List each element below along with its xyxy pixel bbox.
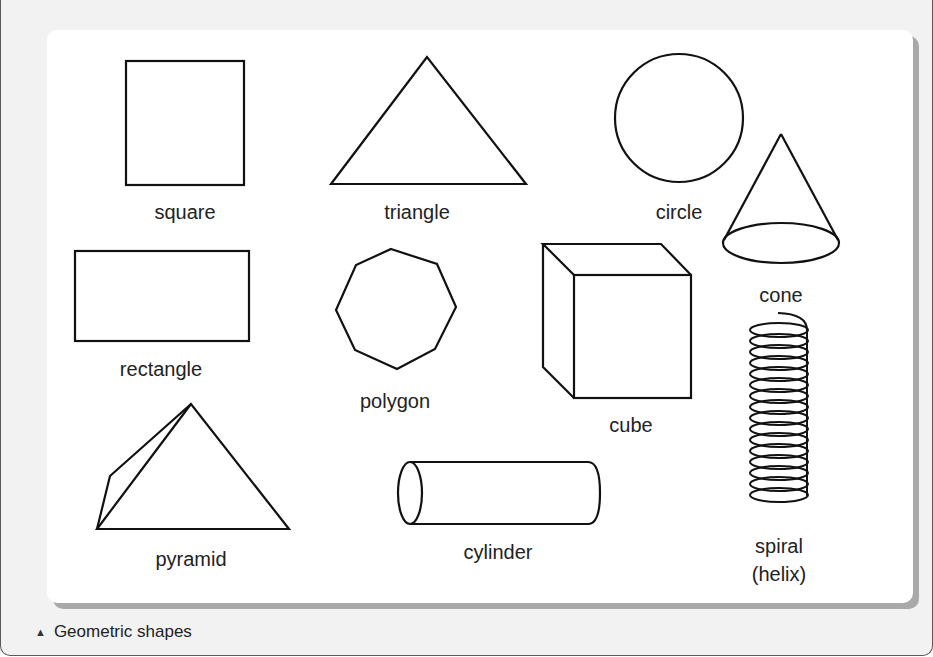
square-shape: [126, 61, 244, 185]
circle-shape: [615, 54, 743, 182]
caption-triangle-icon: ▲: [35, 626, 46, 638]
pyramid-label: pyramid: [155, 548, 226, 570]
square-label: square: [154, 201, 215, 223]
pyramid-shape: [97, 404, 289, 529]
rectangle-shape: [75, 251, 249, 341]
figure-caption: ▲ Geometric shapes: [35, 622, 192, 642]
cube-shape: [543, 244, 691, 398]
cube-label: cube: [609, 414, 652, 436]
spiral-shape: [750, 313, 808, 502]
spiral-label: spiral: [755, 535, 803, 557]
helix-label: (helix): [752, 563, 806, 585]
figure-frame: square triangle circle cone rectangle po…: [0, 0, 933, 656]
polygon-label: polygon: [360, 390, 430, 412]
polygon-shape: [336, 249, 456, 369]
cylinder-label: cylinder: [464, 541, 533, 563]
rectangle-label: rectangle: [120, 358, 202, 380]
triangle-shape: [331, 57, 526, 184]
cone-label: cone: [759, 284, 802, 306]
caption-text: Geometric shapes: [54, 622, 192, 642]
cylinder-shape: [398, 462, 600, 524]
triangle-label: triangle: [384, 201, 450, 223]
cone-shape: [723, 134, 839, 263]
circle-label: circle: [656, 201, 703, 223]
